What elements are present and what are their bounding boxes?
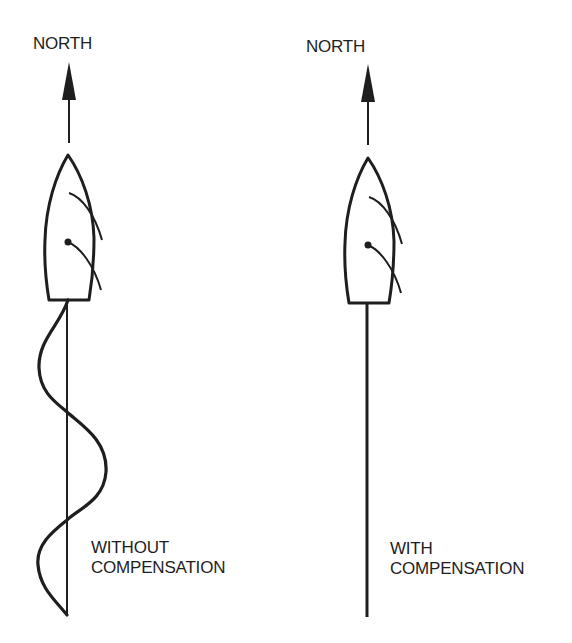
panel-without-compensation [38, 62, 106, 615]
panel-with-compensation [345, 64, 402, 617]
north-arrow-icon [361, 64, 375, 145]
caption-with-line1: WITH [390, 539, 433, 559]
north-label-left: NORTH [33, 34, 92, 54]
diagram-canvas: NORTH WITHOUT COMPENSATION NORTH WITH CO… [0, 0, 572, 643]
caption-without-line1: WITHOUT [91, 538, 169, 558]
north-label-right: NORTH [306, 37, 365, 57]
diagram-graphics [0, 0, 572, 643]
caption-without-line2: COMPENSATION [91, 558, 225, 578]
caption-with-line2: COMPENSATION [390, 559, 524, 579]
boat-icon [45, 155, 102, 300]
north-arrow-icon [62, 62, 76, 143]
boat-icon [345, 158, 402, 303]
